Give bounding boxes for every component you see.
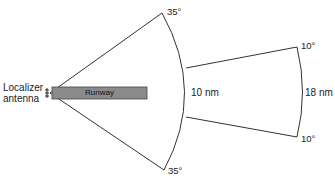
antenna-label-line2: antenna <box>3 93 43 104</box>
sector-35-lower-edge <box>50 93 164 170</box>
sector-35-upper-edge <box>50 13 162 93</box>
antenna-icon <box>45 88 49 98</box>
sector-18nm-arc <box>297 47 303 137</box>
sector-10-upper-edge <box>186 47 297 68</box>
sector-10nm-arc <box>162 13 185 170</box>
distance-18nm: 18 nm <box>305 87 333 98</box>
angle-top-10: 10° <box>301 40 315 51</box>
runway-label: Runway <box>52 87 147 99</box>
angle-bottom-35: 35° <box>168 165 182 176</box>
sector-10-lower-edge <box>186 117 297 137</box>
antenna-label: Localizer antenna <box>3 82 43 104</box>
angle-top-35: 35° <box>167 6 181 17</box>
distance-10nm: 10 nm <box>191 87 219 98</box>
localizer-coverage-diagram <box>0 0 335 181</box>
antenna-label-line1: Localizer <box>3 82 43 93</box>
angle-bottom-10: 10° <box>301 133 315 144</box>
